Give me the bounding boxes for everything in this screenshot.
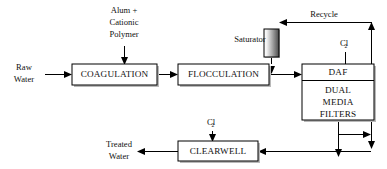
daf-body-line-1: DUAL	[325, 85, 351, 95]
process-box-daf-filters[interactable]: DAF DUAL MEDIA FILTERS	[302, 64, 376, 122]
saturator-label: Saturator	[234, 34, 266, 44]
raw-water-line-1: Raw	[16, 62, 33, 72]
treated-water-line-1: Treated	[106, 139, 133, 149]
daf-label: DAF	[329, 67, 348, 77]
raw-water-line-2: Water	[14, 74, 34, 84]
saturator-vessel[interactable]	[264, 29, 280, 58]
label-saturator: Saturator	[234, 34, 266, 44]
flow-recycle-to-saturator	[279, 19, 372, 26]
label-recycle: Recycle	[310, 9, 338, 19]
process-flow-diagram: COAGULATION FLOCCULATION CLEARWELL DAF D…	[0, 0, 387, 169]
coagulation-label: COAGULATION	[81, 69, 149, 79]
flow-raw-water-to-coagulation	[45, 71, 72, 78]
daf-body-line-3: FILTERS	[320, 109, 356, 119]
label-chemical-feed: Alum + Cationic Polymer	[109, 5, 138, 39]
diagram-canvas: COAGULATION FLOCCULATION CLEARWELL DAF D…	[0, 0, 387, 169]
recycle-label: Recycle	[310, 9, 338, 19]
flow-chemical-to-coagulation	[121, 46, 128, 65]
chlorine-daf-subscript: 2	[345, 43, 348, 49]
flow-chlorine-to-clearwell	[209, 131, 216, 142]
label-chlorine-clearwell: Cl 2	[207, 117, 216, 128]
clearwell-label: CLEARWELL	[190, 146, 247, 156]
flow-flocculation-to-daf	[269, 71, 302, 78]
label-treated-water: Treated Water	[106, 139, 133, 161]
treated-water-line-2: Water	[109, 151, 129, 161]
flow-clearwell-to-treated-water	[137, 148, 178, 155]
flow-daf-to-clearwell	[258, 148, 371, 155]
daf-body-line-2: MEDIA	[323, 97, 354, 107]
flow-coagulation-to-flocculation	[157, 71, 178, 78]
label-raw-water: Raw Water	[14, 62, 34, 84]
chemical-feed-line-2: Cationic	[109, 17, 138, 27]
label-chlorine-daf: Cl 2	[340, 38, 349, 49]
process-box-flocculation[interactable]: FLOCCULATION	[178, 64, 271, 87]
process-box-coagulation[interactable]: COAGULATION	[72, 64, 159, 87]
chemical-feed-line-3: Polymer	[109, 29, 138, 39]
chemical-feed-line-1: Alum +	[111, 5, 138, 15]
chlorine-clearwell-subscript: 2	[212, 122, 215, 128]
process-box-clearwell[interactable]: CLEARWELL	[178, 141, 260, 163]
flocculation-label: FLOCCULATION	[188, 69, 259, 79]
